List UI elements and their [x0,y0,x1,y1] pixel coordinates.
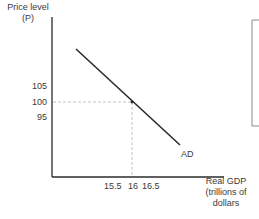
y-tick-105: 105 [32,81,47,92]
x-axis-label: Real GDP (trillions of dollars [196,176,256,209]
x-axis-label-line3: dollars [196,198,256,209]
x-axis-label-line1: Real GDP [196,176,256,187]
y-axis-label-line2: (P) [6,13,50,24]
x-tick-16: 16 [128,181,138,192]
y-tick-100: 100 [32,97,47,108]
x-tick-15-5: 15.5 [104,181,122,192]
ad-curve-label: AD [181,149,194,160]
y-axis-label-line1: Price level [6,2,50,13]
side-panel-box [252,20,259,126]
equilibrium-point [131,101,134,104]
y-axis-label: Price level (P) [6,2,50,24]
ad-curve [76,49,180,145]
x-tick-16-5: 16.5 [142,181,160,192]
y-tick-95: 95 [37,112,47,123]
x-axis-label-line2: (trillions of [196,187,256,198]
